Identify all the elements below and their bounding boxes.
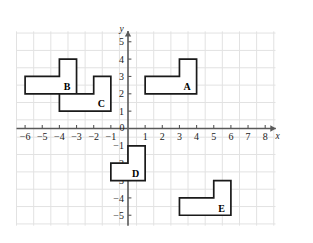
- x-axis-tick-label: −4: [54, 131, 65, 142]
- x-axis-tick-label: −3: [71, 131, 82, 142]
- coordinate-plane-figure: −6−5−4−3−2−101234567854321−1−2−3−4−5 xy …: [0, 0, 313, 243]
- x-axis-tick-label: 6: [228, 131, 233, 142]
- x-axis-name: x: [274, 131, 280, 141]
- shape-label-d: D: [132, 168, 139, 179]
- x-axis-tick-label: −6: [20, 131, 31, 142]
- x-axis-tick-label: 4: [194, 131, 199, 142]
- x-axis-tick-label: 7: [246, 131, 251, 142]
- y-axis-tick-label: 2: [119, 88, 124, 99]
- y-axis-tick-label: 1: [119, 106, 124, 117]
- x-axis-tick-label: 1: [143, 131, 148, 142]
- x-axis-tick-label: 0: [120, 122, 125, 133]
- y-axis-tick-label: −5: [113, 210, 124, 221]
- y-axis-arrowhead: [125, 31, 131, 37]
- y-axis-tick-label: 3: [119, 71, 124, 82]
- x-axis-tick-label: −2: [88, 131, 99, 142]
- y-axis-tick-label: 4: [119, 54, 124, 65]
- coordinate-plane-svg: −6−5−4−3−2−101234567854321−1−2−3−4−5 xy …: [0, 0, 313, 243]
- x-axis-tick-label: 3: [177, 131, 182, 142]
- x-axis-tick-label: 8: [263, 131, 268, 142]
- shape-label-b: B: [64, 81, 71, 92]
- y-axis-name: y: [118, 24, 124, 34]
- shape-label-e: E: [218, 203, 225, 214]
- y-axis-tick-label: −4: [113, 193, 124, 204]
- shape-label-a: A: [184, 81, 192, 92]
- shape-label-c: C: [98, 98, 105, 109]
- axes-group: [17, 31, 276, 226]
- y-axis-tick-label: 5: [119, 36, 124, 47]
- y-axis-tick-label: −1: [113, 140, 124, 151]
- x-axis-tick-label: 5: [211, 131, 216, 142]
- x-axis-tick-label: 2: [160, 131, 165, 142]
- x-axis-tick-label: −5: [37, 131, 48, 142]
